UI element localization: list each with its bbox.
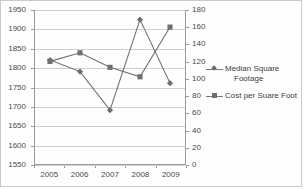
left-axis-tick-label: 1850 bbox=[0, 45, 26, 53]
plot-area bbox=[34, 10, 186, 165]
data-point-marker[interactable] bbox=[137, 74, 142, 79]
left-axis-tick-label: 1700 bbox=[0, 103, 26, 111]
right-axis-tick-label: 0 bbox=[192, 161, 218, 169]
series-layer bbox=[35, 10, 185, 164]
x-axis-tick-label: 2007 bbox=[95, 171, 125, 179]
right-axis-tick-label: 20 bbox=[192, 144, 218, 152]
right-axis-tick-label: 160 bbox=[192, 23, 218, 31]
right-axis-tick bbox=[186, 148, 189, 149]
left-axis-tick-label: 1950 bbox=[0, 6, 26, 14]
right-axis-tick bbox=[186, 96, 189, 97]
left-axis-tick-label: 1800 bbox=[0, 64, 26, 72]
left-axis-tick-label: 1750 bbox=[0, 84, 26, 92]
left-axis-tick-label: 1600 bbox=[0, 142, 26, 150]
data-point-marker[interactable] bbox=[77, 50, 82, 55]
legend-label-cost-per-square-foot: Cost per Suare Foot bbox=[225, 91, 297, 101]
right-axis-tick bbox=[186, 113, 189, 114]
legend-label-median-square-footage: Median Square Footage bbox=[225, 64, 279, 84]
right-axis-tick bbox=[186, 79, 189, 80]
right-axis-tick bbox=[186, 44, 189, 45]
data-point-marker[interactable] bbox=[167, 80, 173, 86]
legend-item-cost-per-square-foot[interactable]: Cost per Suare Foot bbox=[206, 91, 301, 101]
left-axis-tick-label: 1650 bbox=[0, 122, 26, 130]
right-axis-tick bbox=[186, 131, 189, 132]
chart-legend: Median Square Footage Cost per Suare Foo… bbox=[206, 64, 301, 108]
chart-container: 195019001850180017501700165016001550 180… bbox=[0, 0, 302, 187]
x-axis-tick-label: 2006 bbox=[65, 171, 95, 179]
x-axis-tick-label: 2009 bbox=[156, 171, 186, 179]
gridline bbox=[35, 165, 185, 166]
right-axis-tick bbox=[186, 10, 189, 11]
data-point-marker[interactable] bbox=[47, 59, 52, 64]
left-axis-tick-label: 1900 bbox=[0, 25, 26, 33]
x-axis-tick bbox=[186, 165, 187, 168]
data-point-marker[interactable] bbox=[167, 25, 172, 30]
data-point-marker[interactable] bbox=[137, 17, 143, 23]
left-axis-tick-label: 1550 bbox=[0, 161, 26, 169]
right-axis-tick-label: 40 bbox=[192, 127, 218, 135]
right-axis-tick bbox=[186, 27, 189, 28]
x-axis-tick-label: 2005 bbox=[34, 171, 64, 179]
right-axis-tick-label: 140 bbox=[192, 40, 218, 48]
right-axis-tick bbox=[186, 62, 189, 63]
legend-label-line2: Footage bbox=[225, 74, 263, 84]
legend-label-line1: Median Square bbox=[225, 64, 279, 73]
legend-item-median-square-footage[interactable]: Median Square Footage bbox=[206, 64, 301, 84]
x-axis-tick-label: 2008 bbox=[125, 171, 155, 179]
right-axis-tick-label: 180 bbox=[192, 6, 218, 14]
diamond-marker-icon bbox=[206, 65, 223, 74]
right-axis-tick-label: 60 bbox=[192, 109, 218, 117]
square-marker-icon bbox=[206, 92, 223, 101]
data-point-marker[interactable] bbox=[107, 65, 112, 70]
